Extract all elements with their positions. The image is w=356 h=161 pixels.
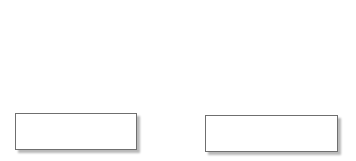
caption-title-line bbox=[16, 117, 136, 132]
caption-self-organizing-team bbox=[15, 113, 137, 150]
caption-title-line bbox=[206, 119, 337, 134]
caption-hierarchy bbox=[205, 115, 338, 152]
